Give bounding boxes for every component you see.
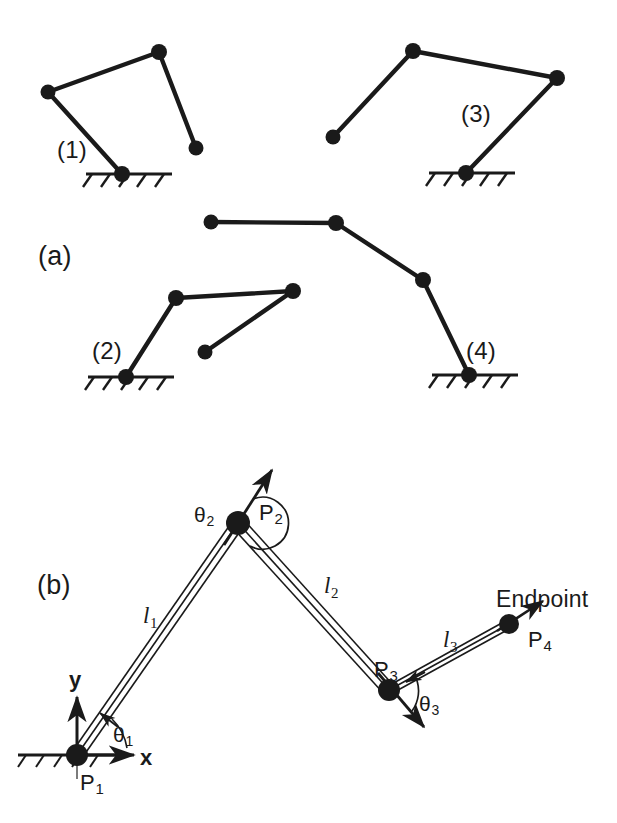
link-length-l3-sub: 3 (450, 639, 458, 655)
linkage-label-1: (1) (57, 136, 87, 164)
x-axis-label: x (140, 745, 152, 771)
joint-label-p2: P2 (259, 500, 283, 527)
joint-label-p4-sub: 4 (543, 637, 552, 654)
link-length-l1-sub: 1 (150, 615, 158, 631)
endpoint-label: Endpoint (496, 586, 588, 613)
linkage-label-2: (2) (92, 337, 122, 365)
angle-label-theta2: θ2 (194, 503, 214, 529)
link-chain-3 (333, 51, 557, 173)
angle-theta1-sub: 1 (125, 733, 134, 749)
joint-dot (415, 272, 431, 288)
joint-dot (198, 345, 213, 360)
joint-dot (461, 367, 477, 383)
theta3-arc (412, 678, 419, 711)
link-length-label-l3: l3 (443, 627, 458, 656)
joint-dot (326, 130, 341, 145)
joint-label-p2-sub: 2 (274, 510, 283, 527)
y-axis-label: y (69, 667, 81, 693)
angle-theta1-base: θ (113, 723, 125, 746)
joint-dot (189, 141, 204, 156)
panel-caption-a: (a) (38, 241, 72, 272)
link-chain-4 (211, 222, 469, 375)
joint-label-p3-base: P (374, 657, 389, 682)
angle-label-theta3: θ3 (419, 692, 439, 718)
joint-label-p3: P3 (374, 657, 398, 684)
link-beam-l1 (72, 519, 243, 758)
angle-theta2-sub: 2 (206, 513, 215, 529)
link-length-l2-base: l (324, 573, 331, 598)
linkage-config-1 (41, 44, 204, 187)
joint-dot-p2 (226, 511, 250, 535)
joint-label-p3-sub: 3 (389, 667, 398, 684)
link-beam-l2 (233, 519, 394, 694)
joint-label-p4-base: P (528, 627, 543, 652)
angle-theta2-base: θ (194, 503, 206, 526)
joint-label-p1-base: P (80, 770, 95, 795)
link-length-l2-sub: 2 (331, 585, 339, 601)
joint-label-p1: P1 (80, 770, 104, 797)
figure-root: (a) (b) (1) (3) (2) (4) P1 P2 P3 P4 l1 l… (0, 0, 617, 823)
joint-dot (168, 290, 184, 306)
joint-dot (151, 44, 167, 60)
angle-theta3-sub: 3 (431, 702, 440, 718)
joint-dot (405, 43, 421, 59)
angle-label-theta1: θ1 (113, 723, 133, 749)
linkage-label-4: (4) (466, 337, 496, 365)
joint-dot-p4 (499, 614, 519, 634)
link-length-label-l1: l1 (143, 603, 158, 632)
joint-label-p1-sub: 1 (95, 780, 104, 797)
panel-caption-b: (b) (37, 570, 71, 601)
joint-dot (41, 85, 56, 100)
linkage-label-3: (3) (461, 100, 491, 128)
linkage-figure-svg (0, 0, 617, 823)
joint-dot (458, 165, 474, 181)
joint-dot (204, 215, 219, 230)
link-length-label-l2: l2 (324, 573, 339, 602)
joint-dot (549, 70, 565, 86)
joint-dot (285, 283, 301, 299)
joint-dot (328, 215, 344, 231)
linkage-config-3 (326, 43, 566, 186)
angle-theta3-base: θ (419, 692, 431, 715)
link-length-l1-base: l (143, 603, 150, 628)
joint-dot-p1 (66, 744, 88, 766)
joint-label-p2-base: P (259, 500, 274, 525)
link-length-l3-base: l (443, 627, 450, 652)
joint-dot (114, 166, 130, 182)
link-chain-2 (126, 291, 293, 377)
joint-label-p4: P4 (528, 627, 552, 654)
joint-dot (118, 369, 134, 385)
